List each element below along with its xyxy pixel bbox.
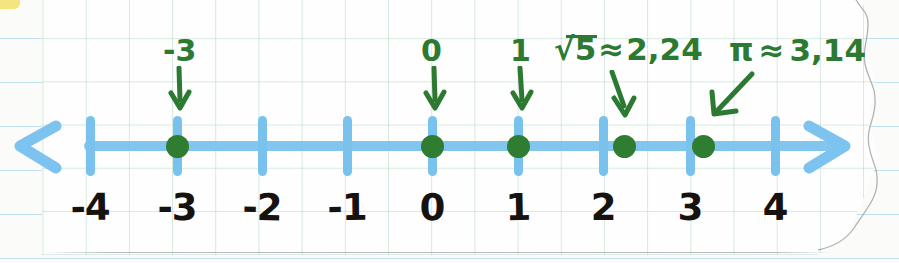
- plotted-point: [507, 135, 530, 158]
- annotation-label-sqrt5: √5≈2,24: [552, 34, 703, 65]
- axis-tick-label: -3: [157, 186, 196, 229]
- paper-bottom-edge: [44, 252, 834, 253]
- axis-tick-label: 2: [591, 186, 616, 229]
- axis-tick-label: 0: [419, 186, 444, 229]
- annotation-arrow-neg3-icon: [160, 66, 200, 116]
- annotation-arrow-zero-icon: [415, 66, 455, 116]
- plotted-point: [613, 135, 636, 158]
- axis-arrow-left-icon: [10, 118, 66, 174]
- tick-mark: [258, 116, 267, 176]
- axis-tick-label: -4: [70, 186, 110, 230]
- axis-tick-label: -2: [242, 186, 282, 230]
- plotted-point: [166, 135, 189, 158]
- annotation-arrow-sqrt5-icon: [600, 70, 648, 124]
- axis-tick-label: -1: [327, 186, 366, 229]
- plotted-point: [421, 135, 444, 158]
- annotation-label-pi: π≈3,14: [729, 35, 866, 66]
- sqrt5-approx-value: 2,24: [626, 31, 703, 67]
- annotation-arrow-one-icon: [501, 66, 541, 116]
- radical-sign-icon: √5: [552, 34, 596, 65]
- pi-symbol-icon: π: [729, 32, 754, 68]
- tick-mark: [86, 116, 95, 176]
- axis-tick-label: 1: [505, 186, 530, 229]
- tick-mark: [599, 116, 608, 176]
- pi-approx-value: 3,14: [790, 32, 867, 68]
- annotation-arrow-pi-icon: [694, 70, 764, 126]
- axis-tick-label: 4: [762, 186, 787, 229]
- number-line-axis: [84, 141, 846, 151]
- number-line-figure: -4-3-2-101234 -3 0 1 √5≈2,24 π≈3,14: [0, 0, 899, 263]
- annotation-label-neg3: -3: [163, 36, 196, 66]
- axis-tick-label: 3: [677, 186, 702, 229]
- tick-mark: [771, 116, 780, 176]
- axis-arrow-right-icon: [797, 118, 853, 174]
- plotted-point: [692, 135, 715, 158]
- annotation-label-zero: 0: [421, 36, 442, 66]
- tick-mark: [343, 116, 352, 176]
- approx-sign-pi: ≈: [759, 32, 785, 68]
- annotation-label-one: 1: [510, 36, 531, 66]
- sticky-corner-marker: [0, 0, 20, 9]
- approx-sign-sqrt5: ≈: [598, 31, 624, 67]
